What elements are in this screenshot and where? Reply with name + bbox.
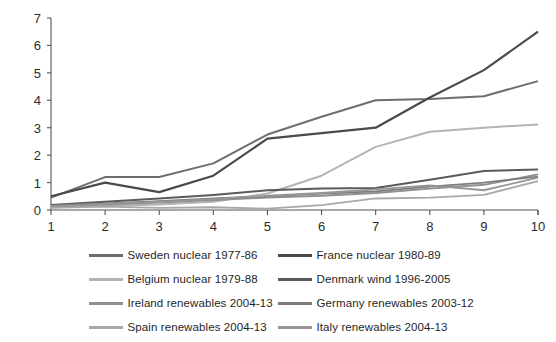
legend-item-label: Spain renewables 2004-13: [128, 321, 267, 333]
y-axis-tick-label: 3: [34, 121, 41, 136]
legend-color-swatch: [89, 326, 123, 329]
legend-item[interactable]: France nuclear 1980-89: [278, 243, 468, 267]
x-axis-tick-labels: 12345678910: [47, 219, 545, 234]
x-axis-tick-label: 3: [156, 219, 163, 234]
legend-item-label: Belgium nuclear 1979-88: [128, 273, 258, 285]
series-line: [51, 81, 538, 198]
legend-item[interactable]: Spain renewables 2004-13: [89, 315, 272, 339]
y-axis-tick-label: 7: [34, 11, 41, 26]
legend-item[interactable]: Ireland renewables 2004-13: [89, 291, 272, 315]
y-axis-tick-label: 5: [34, 66, 41, 81]
series-line: [51, 32, 538, 197]
legend-item[interactable]: Belgium nuclear 1979-88: [89, 267, 272, 291]
line-chart: 01234567 12345678910 Sweden nuclear 1977…: [0, 0, 556, 342]
legend-item-label: France nuclear 1980-89: [317, 249, 441, 261]
legend-item[interactable]: Germany renewables 2003-12: [278, 291, 468, 315]
x-axis-tick-label: 7: [372, 219, 379, 234]
x-axis-tick-label: 10: [531, 219, 545, 234]
legend-item-label: Ireland renewables 2004-13: [128, 297, 273, 309]
y-axis-tick-labels: 01234567: [34, 11, 41, 218]
y-axis-tick-label: 6: [34, 38, 41, 53]
plot-svg: 01234567 12345678910: [0, 0, 556, 240]
series-line: [51, 169, 538, 205]
x-axis-tick-label: 8: [426, 219, 433, 234]
legend-color-swatch: [89, 302, 123, 305]
legend-color-swatch: [278, 302, 312, 305]
series-lines: [51, 32, 538, 209]
legend-color-swatch: [89, 254, 123, 257]
x-axis-tick-label: 5: [264, 219, 271, 234]
legend-color-swatch: [278, 254, 312, 257]
chart-legend: Sweden nuclear 1977-86France nuclear 198…: [0, 243, 556, 342]
legend-item[interactable]: Italy renewables 2004-13: [278, 315, 468, 339]
legend-item[interactable]: Denmark wind 1996-2005: [278, 267, 468, 291]
x-axis-tick-label: 6: [318, 219, 325, 234]
legend-item[interactable]: Sweden nuclear 1977-86: [89, 243, 272, 267]
x-axis-tick-label: 1: [47, 219, 54, 234]
y-axis-tick-label: 2: [34, 148, 41, 163]
y-axis-tick-label: 1: [34, 176, 41, 191]
legend-item-label: Denmark wind 1996-2005: [317, 273, 451, 285]
legend-color-swatch: [278, 278, 312, 281]
y-axis-tick-label: 4: [34, 93, 41, 108]
y-axis-tick-label: 0: [34, 203, 41, 218]
legend-item-label: Germany renewables 2003-12: [317, 297, 474, 309]
x-axis-tick-label: 4: [210, 219, 217, 234]
legend-item-label: Italy renewables 2004-13: [317, 321, 448, 333]
legend-color-swatch: [89, 278, 123, 281]
plot-area: 01234567 12345678910: [0, 0, 556, 240]
legend-color-swatch: [278, 326, 312, 329]
x-axis-tick-label: 9: [480, 219, 487, 234]
x-axis-tick-label: 2: [101, 219, 108, 234]
legend-item-label: Sweden nuclear 1977-86: [128, 249, 258, 261]
